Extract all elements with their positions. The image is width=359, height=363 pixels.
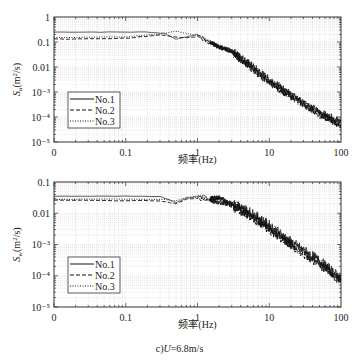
x-axis-label: 频率(Hz) [178,318,216,331]
x-tick-label: 0 [52,312,57,323]
y-tick-label: 10⁻⁵ [31,137,50,148]
x-tick-label: 0.1 [120,312,133,323]
x-tick-label: 100 [334,312,349,323]
legend-entry: No.3 [95,116,115,127]
y-tick-label: 0.1 [38,177,51,188]
y-tick-label: 1 [45,12,50,23]
legend-entry: No.2 [95,105,115,116]
chart-panel-bottom: 00.111010010⁻⁵10⁻⁴10⁻³0.010.1频率(Hz)Sw(m2… [11,177,349,332]
legend-entry: No.2 [95,270,115,281]
y-tick-label: 10⁻⁴ [31,112,50,123]
x-tick-label: 100 [334,147,349,158]
y-axis-label: Sw(m2/s) [11,227,24,261]
y-tick-label: 0.01 [33,208,51,219]
x-tick-label: 0 [52,147,57,158]
y-tick-label: 10⁻³ [32,87,50,98]
legend-entry: No.1 [95,94,115,105]
y-tick-label: 10⁻⁴ [31,270,50,281]
legend-entry: No.1 [95,259,115,270]
legend: No.1No.2No.3 [68,92,120,128]
x-tick-label: 0.1 [120,147,133,158]
y-tick-label: 0.1 [38,37,51,48]
x-tick-label: 10 [264,312,274,323]
y-tick-label: 10⁻⁵ [31,302,50,313]
spectra-figure: 00.111010010⁻⁵10⁻⁴10⁻³0.010.11频率(Hz)Su(m… [0,0,359,363]
y-axis-label: Su(m2/s) [11,63,24,96]
figure-caption: c)U=6.8m/s [0,343,359,354]
legend: No.1No.2No.3 [68,257,120,293]
chart-panel-top: 00.111010010⁻⁵10⁻⁴10⁻³0.010.11频率(Hz)Su(m… [11,12,349,167]
legend-entry: No.3 [95,281,115,292]
x-tick-label: 10 [264,147,274,158]
x-axis-label: 频率(Hz) [178,153,216,166]
y-tick-label: 10⁻³ [32,239,50,250]
y-tick-label: 0.01 [33,62,51,73]
